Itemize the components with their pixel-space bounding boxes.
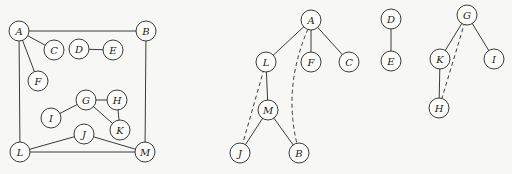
node-label: E <box>108 45 117 56</box>
node-J: J <box>74 124 94 144</box>
node-label: G <box>463 10 471 21</box>
node-B: B <box>136 21 156 41</box>
node-E: E <box>103 40 123 60</box>
node-K: K <box>110 120 130 140</box>
node-H: H <box>429 98 449 118</box>
spanning-tree-G: GKIH <box>429 5 504 118</box>
graph-diagram: ABCDEFGHIKJLMALFCMJBDEGKIH <box>0 0 512 174</box>
node-M: M <box>258 100 278 120</box>
node-label: A <box>14 26 22 37</box>
node-label: K <box>435 54 444 65</box>
node-D: D <box>381 9 401 29</box>
node-label: J <box>236 148 243 159</box>
node-label: D <box>386 14 395 25</box>
node-I: I <box>484 49 504 69</box>
edge-B-M <box>145 31 146 152</box>
node-L: L <box>10 142 30 162</box>
node-G: G <box>76 90 96 110</box>
node-E: E <box>381 51 401 71</box>
node-F: F <box>28 71 48 91</box>
edge-A-B-dashed <box>292 29 308 144</box>
node-F: F <box>301 52 321 72</box>
node-J: J <box>230 143 250 163</box>
node-I: I <box>41 108 61 128</box>
node-label: H <box>434 103 444 114</box>
node-K: K <box>430 49 450 69</box>
node-C: C <box>44 40 64 60</box>
node-label: M <box>262 105 274 116</box>
node-A: A <box>9 21 29 41</box>
node-label: D <box>74 44 83 55</box>
node-M: M <box>135 142 155 162</box>
node-G: G <box>457 5 477 25</box>
node-label: H <box>112 95 122 106</box>
edge-A-L <box>19 31 20 152</box>
spanning-tree-D: DE <box>381 9 401 71</box>
spanning-tree-A: ALFCMJB <box>230 10 359 163</box>
node-label: G <box>82 95 90 106</box>
node-label: C <box>50 45 58 56</box>
diagram-canvas: ABCDEFGHIKJLMALFCMJBDEGKIH <box>0 0 512 174</box>
original-graph: ABCDEFGHIKJLM <box>9 21 156 162</box>
node-label: E <box>386 56 395 67</box>
node-label: L <box>16 147 24 158</box>
node-label: F <box>34 76 43 87</box>
node-D: D <box>69 39 89 59</box>
node-C: C <box>339 52 359 72</box>
node-H: H <box>107 90 127 110</box>
node-label: K <box>115 125 124 136</box>
node-A: A <box>301 10 321 30</box>
node-label: L <box>262 57 270 68</box>
node-label: A <box>306 15 314 26</box>
node-L: L <box>256 52 276 72</box>
node-label: F <box>307 57 316 68</box>
node-label: B <box>294 148 302 159</box>
node-label: J <box>80 129 87 140</box>
node-B: B <box>289 143 309 163</box>
node-label: M <box>139 147 151 158</box>
node-label: C <box>345 57 353 68</box>
node-label: B <box>141 26 149 37</box>
